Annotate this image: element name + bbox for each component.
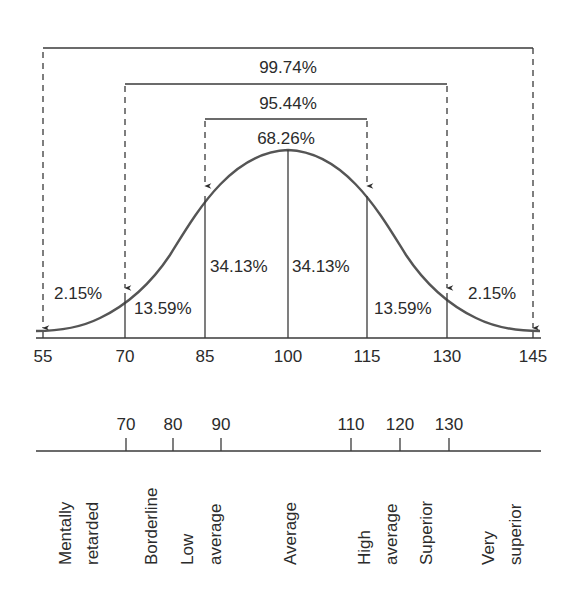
diagram-canvas: 99.74% 95.44% 68.26% xyxy=(0,0,568,596)
segment-left-2-label: 13.59% xyxy=(134,299,192,318)
scale-tick-label: 90 xyxy=(212,415,231,434)
segment-left-tail-label: 2.15% xyxy=(54,284,102,303)
classification-scale: 70 80 90 110 120 130 xyxy=(36,415,541,451)
category-very-superior-line1: Very xyxy=(479,530,498,565)
category-high-average-line1: High xyxy=(355,530,374,565)
scale-tick-label: 80 xyxy=(164,415,183,434)
iq-distribution-diagram: 99.74% 95.44% 68.26% xyxy=(0,0,568,596)
category-superior: Superior xyxy=(417,500,436,565)
scale-tick-label: 120 xyxy=(386,415,414,434)
tick-label: 130 xyxy=(433,347,461,366)
category-mentally-retarded-line2: retarded xyxy=(83,502,102,565)
segment-right-tail-label: 2.15% xyxy=(468,284,516,303)
bracket-middle-label: 95.44% xyxy=(259,94,317,113)
x-axis-tick-labels: 55 70 85 100 115 130 145 xyxy=(34,347,548,366)
scale-tick-label: 70 xyxy=(117,415,136,434)
bracket-inner-label: 68.26% xyxy=(257,129,315,148)
scale-tick-label: 110 xyxy=(337,415,364,434)
category-average: Average xyxy=(281,502,300,565)
category-low-average-line1: Low xyxy=(178,533,197,565)
category-very-superior-line2: superior xyxy=(506,503,525,565)
category-low-average-line2: average xyxy=(206,504,225,565)
bracket-outer-label: 99.74% xyxy=(259,58,317,77)
tick-label: 55 xyxy=(34,347,53,366)
category-borderline: Borderline xyxy=(142,488,161,566)
bracket-95-44: 95.44% xyxy=(125,84,447,288)
segment-right-2-label: 13.59% xyxy=(374,299,432,318)
category-high-average-line2: average xyxy=(382,504,401,565)
tick-label: 85 xyxy=(196,347,215,366)
scale-tick-label: 130 xyxy=(435,415,463,434)
tick-label: 70 xyxy=(116,347,135,366)
segment-right-1-label: 34.13% xyxy=(292,257,350,276)
classification-labels: Mentally retarded Borderline Low average… xyxy=(56,488,525,566)
tick-label: 115 xyxy=(353,347,380,366)
category-mentally-retarded-line1: Mentally xyxy=(56,501,75,565)
tick-label: 145 xyxy=(519,347,547,366)
tick-label: 100 xyxy=(274,347,302,366)
segment-left-1-label: 34.13% xyxy=(210,257,268,276)
